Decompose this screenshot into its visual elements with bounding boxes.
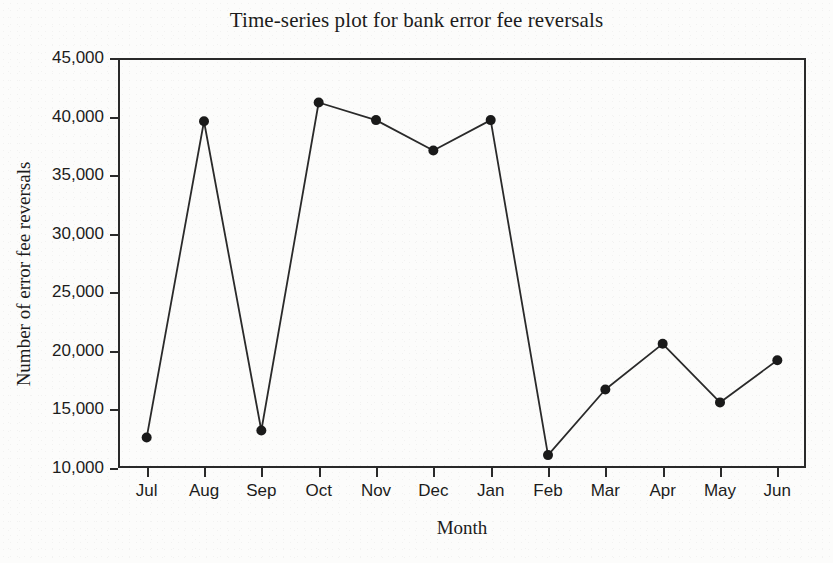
- y-tick-label: 30,000: [52, 225, 104, 242]
- y-tick-label: 20,000: [52, 342, 104, 359]
- y-tick-label: 25,000: [52, 283, 104, 300]
- y-tick-mark: [110, 292, 118, 294]
- x-tick-mark: [147, 468, 149, 477]
- series-line: [147, 103, 778, 456]
- chart-page: Time-series plot for bank error fee reve…: [0, 0, 833, 563]
- x-tick-mark: [261, 468, 263, 477]
- line-series-plot: Jul: 12,600Aug: 39,600Sep: 13,200Oct: 41…: [118, 58, 806, 468]
- x-tick-mark: [319, 468, 321, 477]
- x-tick-mark: [720, 468, 722, 477]
- data-point-marker: Sep: 13,200: [256, 426, 266, 436]
- data-point-marker: Oct: 41,200: [314, 98, 324, 108]
- data-point-marker: Nov: 39,700: [371, 115, 381, 125]
- x-tick-mark: [548, 468, 550, 477]
- x-axis-title: Month: [118, 517, 806, 539]
- y-tick-label: 15,000: [52, 400, 104, 417]
- y-tick-mark: [110, 351, 118, 353]
- y-tick-mark: [110, 117, 118, 119]
- data-point-marker: Jun: 19,200: [772, 355, 782, 365]
- data-point-marker: Aug: 39,600: [199, 116, 209, 126]
- data-point-marker: Feb: 11,100: [543, 450, 553, 460]
- data-point-marker: Dec: 37,100: [428, 146, 438, 156]
- series-markers: Jul: 12,600Aug: 39,600Sep: 13,200Oct: 41…: [142, 98, 783, 461]
- y-tick-mark: [110, 468, 118, 470]
- x-tick-mark: [777, 468, 779, 477]
- data-point-marker: Jul: 12,600: [142, 433, 152, 443]
- x-tick-label: Jun: [742, 481, 812, 501]
- x-tick-mark: [491, 468, 493, 477]
- y-tick-label: 35,000: [52, 166, 104, 183]
- x-tick-mark: [376, 468, 378, 477]
- y-tick-mark: [110, 58, 118, 60]
- x-tick-mark: [433, 468, 435, 477]
- y-axis-title: Number of error fee reversals: [13, 124, 35, 424]
- y-tick-label: 40,000: [52, 108, 104, 125]
- y-tick-mark: [110, 409, 118, 411]
- x-tick-mark: [663, 468, 665, 477]
- data-point-marker: Mar: 16,700: [600, 385, 610, 395]
- data-point-marker: May: 15,600: [715, 397, 725, 407]
- y-tick-label: 45,000: [52, 49, 104, 66]
- data-point-marker: Jan: 39,700: [486, 115, 496, 125]
- y-tick-mark: [110, 234, 118, 236]
- y-tick-label: 10,000: [52, 459, 104, 476]
- chart-title: Time-series plot for bank error fee reve…: [0, 8, 833, 33]
- x-tick-mark: [605, 468, 607, 477]
- data-point-marker: Apr: 20,600: [658, 339, 668, 349]
- x-tick-mark: [204, 468, 206, 477]
- y-tick-mark: [110, 175, 118, 177]
